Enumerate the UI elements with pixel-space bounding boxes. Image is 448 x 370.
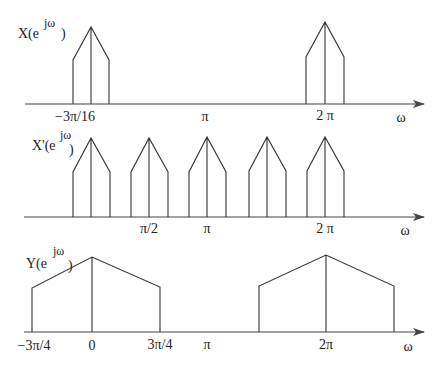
- panel-xprime-tick-pi: π: [203, 221, 210, 236]
- panel-y-spectrum: Y(e jω ) −3π/4 0 3π/4 π 2π ω: [18, 244, 424, 354]
- panel-y-lobe-baseband: [32, 257, 160, 332]
- panel-y-tick-neg-3pi-4: −3π/4: [18, 338, 51, 353]
- panel-xprime-tick-pi-2: π/2: [140, 221, 158, 236]
- panel-xprime-tick-2pi: 2 π: [316, 221, 334, 236]
- panel-y-tick-zero: 0: [89, 338, 96, 353]
- panel-y-label-superscript: jω: [52, 244, 64, 258]
- panel-x-omega-label: ω: [396, 110, 405, 125]
- panel-y-tick-3pi-4: 3π/4: [148, 337, 173, 352]
- panel-xprime-lobe-2: [131, 138, 168, 217]
- spectrum-diagram: X(e jω ) −3π/16 π 2 π ω X'(e jω ) π/2 π …: [0, 0, 448, 370]
- panel-xprime-omega-label: ω: [400, 223, 409, 238]
- panel-xprime-label: X'(e: [32, 138, 56, 154]
- panel-y-tick-2pi: 2π: [319, 337, 333, 352]
- panel-x-spectrum: X(e jω ) −3π/16 π 2 π ω: [18, 16, 424, 125]
- panel-x-label: X(e: [18, 26, 39, 42]
- panel-xprime-label-close: ): [69, 142, 74, 158]
- panel-x-lobe-baseband: [73, 27, 109, 104]
- panel-x-tick-2pi: 2 π: [316, 108, 334, 123]
- panel-y-label-close: ): [68, 258, 73, 274]
- panel-x-lobe-2pi: [306, 22, 344, 104]
- panel-y-tick-pi: π: [203, 337, 210, 352]
- panel-xprime-label-superscript: jω: [59, 128, 71, 142]
- panel-x-label-close: ): [61, 26, 66, 42]
- panel-y-label: Y(e: [26, 256, 47, 272]
- panel-xprime-lobe-4: [249, 137, 286, 217]
- panel-x-tick-neg-3pi-16: −3π/16: [55, 109, 95, 124]
- panel-x-tick-pi: π: [201, 109, 208, 124]
- panel-xprime-spectrum: X'(e jω ) π/2 π 2 π ω: [24, 128, 424, 238]
- panel-y-lobe-2pi: [259, 255, 394, 332]
- panel-xprime-lobe-1: [73, 138, 110, 217]
- panel-xprime-lobe-5: [307, 137, 344, 217]
- panel-y-omega-label: ω: [403, 339, 412, 354]
- panel-xprime-lobe-3: [189, 137, 226, 217]
- panel-x-label-superscript: jω: [43, 16, 55, 30]
